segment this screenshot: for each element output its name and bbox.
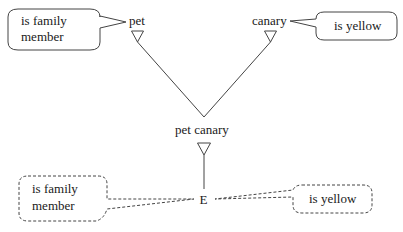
edge-canary-to-pet-canary [204,42,271,117]
inheritance-triangle-pet-icon [132,31,144,42]
instance-triangle-icon [198,143,211,155]
callout-bottom-left-line2: member [32,198,75,213]
callout-top-right-line1: is yellow [334,18,382,33]
node-pet: pet [129,13,145,28]
inheritance-triangle-canary-icon [265,31,277,42]
callout-top-left-line2: member [21,29,64,44]
node-e: E [200,192,208,207]
callout-top-left-line1: is family [21,13,67,28]
callout-bottom-left-line1: is family [32,181,78,196]
callout-bottom-left: is family member [19,176,194,221]
node-canary: canary [252,13,287,28]
callout-top-right: is yellow [290,12,397,40]
edge-pet-to-pet-canary [138,42,205,117]
node-pet-canary: pet canary [175,122,229,137]
inheritance-diagram: is family member pet canary is yellow pe… [0,0,403,232]
callout-top-left: is family member [8,9,126,50]
callout-bottom-right: is yellow [215,185,372,213]
callout-bottom-right-line1: is yellow [309,191,357,206]
